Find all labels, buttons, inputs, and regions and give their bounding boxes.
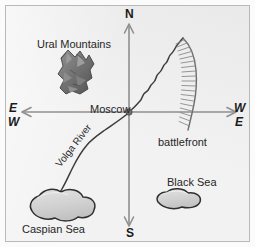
label-black-sea: Black Sea bbox=[167, 177, 217, 188]
compass-label-right-lower: E bbox=[235, 116, 243, 128]
compass-label-south: S bbox=[126, 227, 134, 239]
label-caspian-sea: Caspian Sea bbox=[22, 224, 85, 235]
label-moscow: Moscow bbox=[90, 104, 130, 115]
label-battlefront: battlefront bbox=[158, 137, 207, 148]
caspian-sea-shape bbox=[30, 189, 94, 221]
compass-label-left-lower: W bbox=[8, 116, 19, 128]
compass-label-left-upper: E bbox=[9, 102, 17, 114]
ural-mountains-icon bbox=[58, 50, 94, 94]
label-ural-mountains: Ural Mountains bbox=[37, 39, 111, 50]
front-approach-line bbox=[130, 38, 183, 111]
compass-label-right-upper: W bbox=[234, 102, 245, 114]
black-sea-shape bbox=[157, 189, 200, 209]
map-figure: N S E W W E Ural Mountains Moscow battle… bbox=[0, 0, 255, 247]
compass-label-north: N bbox=[125, 8, 134, 20]
battlefront-hatching bbox=[176, 40, 196, 127]
map-frame: N S E W W E Ural Mountains Moscow battle… bbox=[5, 5, 250, 242]
